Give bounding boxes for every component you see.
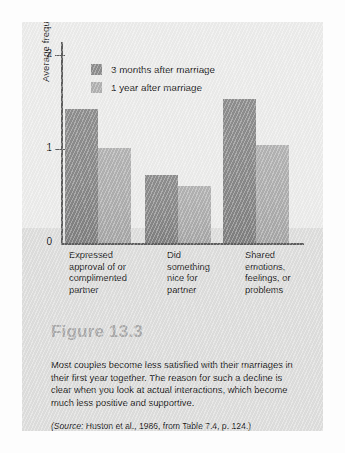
category-label: Didsomethingnice forpartner xyxy=(167,250,210,296)
bar xyxy=(65,109,98,243)
source-label: (Source: xyxy=(51,421,83,431)
figure-page: Average frequency per day 012 3 months a… xyxy=(0,0,345,453)
figure-card: Average frequency per day 012 3 months a… xyxy=(22,22,323,431)
bar-group xyxy=(63,22,305,244)
figure-source-line: (Source: Huston et al., 1986, from Table… xyxy=(51,421,309,431)
bar xyxy=(223,99,256,243)
figure-number: Figure 13.3 xyxy=(51,322,143,342)
bar xyxy=(98,148,131,243)
category-label: Expressedapproval of orcomplimentedpartn… xyxy=(69,250,127,296)
y-tick-label: 2 xyxy=(34,48,52,59)
legend-label: 1 year after marriage xyxy=(111,82,202,93)
bar-chart: Average frequency per day 012 3 months a… xyxy=(22,22,323,262)
y-tick-label: 1 xyxy=(34,142,52,153)
chart-legend: 3 months after marriage1 year after marr… xyxy=(91,62,215,98)
x-axis-category-labels: Expressedapproval of orcomplimentedpartn… xyxy=(63,250,313,312)
figure-body-text: Most couples become less satisfied with … xyxy=(51,359,300,409)
legend-swatch-icon xyxy=(91,64,102,75)
category-label: Sharedemotions,feelings, orproblems xyxy=(245,250,290,296)
source-citation: Huston et al., 1986, from Table 7.4, p. … xyxy=(83,421,251,431)
bar xyxy=(256,145,289,243)
bar xyxy=(145,175,178,243)
y-tick-label: 0 xyxy=(34,236,52,247)
legend-swatch-icon xyxy=(91,82,102,93)
legend-item: 1 year after marriage xyxy=(91,80,215,95)
legend-label: 3 months after marriage xyxy=(111,64,215,75)
legend-item: 3 months after marriage xyxy=(91,62,215,77)
bar xyxy=(178,186,211,243)
